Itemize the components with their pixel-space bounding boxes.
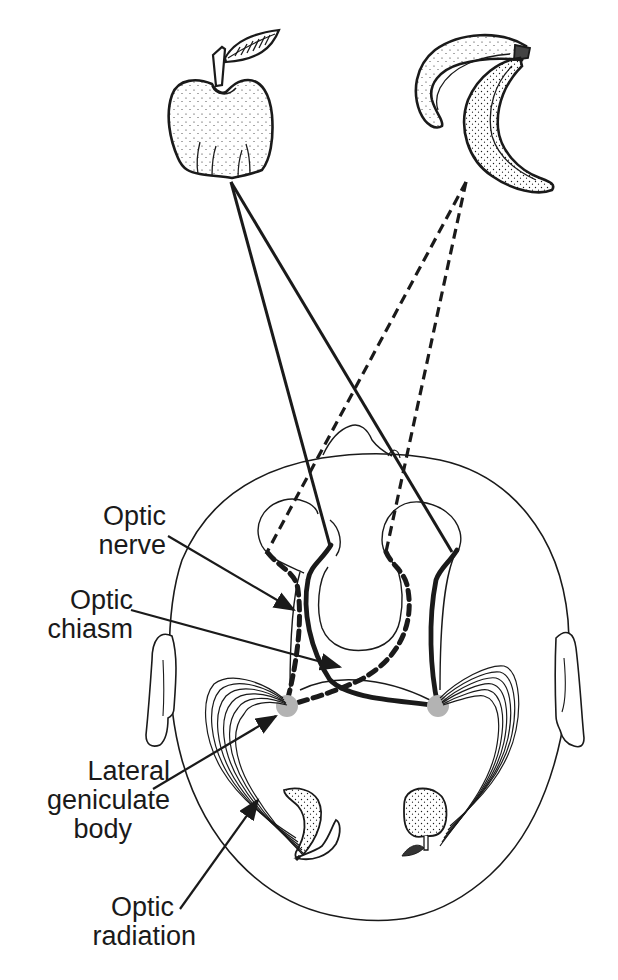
label-lgn-line1: Lateral (20, 757, 170, 786)
label-optic-nerve-line1: Optic (80, 502, 166, 531)
label-optic-radiation: Optic radiation (60, 893, 196, 951)
optic-nerve-leader (168, 536, 294, 610)
label-optic-nerve: Optic nerve (80, 502, 166, 560)
apple-optic-pathway (306, 545, 457, 706)
label-optic-radiation-line1: Optic (60, 893, 196, 922)
skull-outline (169, 454, 569, 921)
apple-leaf-icon (225, 30, 279, 62)
lgn-leader (153, 716, 276, 789)
left-ear (146, 634, 176, 746)
bananas-object (416, 35, 553, 192)
label-lgn-line2: geniculate (20, 786, 170, 815)
label-lateral-geniculate-body: Lateral geniculate body (20, 757, 170, 844)
right-ear (555, 633, 584, 747)
apple-object (169, 30, 279, 178)
banana-rays (266, 182, 466, 554)
apple-rays (231, 182, 452, 552)
label-lgn-line3: body (20, 815, 170, 844)
label-optic-radiation-line2: radiation (60, 922, 196, 951)
label-optic-chiasm-line2: chiasm (30, 615, 133, 644)
banana-optic-pathway (268, 552, 409, 706)
apple-body (169, 80, 273, 178)
label-optic-chiasm: Optic chiasm (30, 586, 133, 644)
label-optic-nerve-line2: nerve (80, 531, 166, 560)
banana-front (464, 58, 553, 192)
label-optic-chiasm-line1: Optic (30, 586, 133, 615)
cortical-banana-image (284, 788, 340, 860)
right-optic-radiation (440, 666, 519, 846)
